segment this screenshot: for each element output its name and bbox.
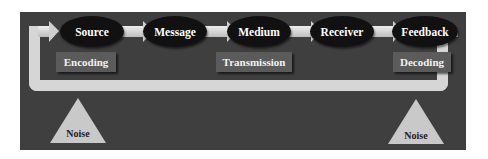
node-medium: Medium [227,16,291,47]
node-feedback: Feedback [392,16,458,47]
arrow-loop-to-source [38,26,50,37]
node-receiver: Receiver [310,16,374,47]
stage-transmission: Transmission [216,52,292,72]
arrow-message-to-medium [204,26,228,37]
stage-encoding: Encoding [56,52,116,72]
arrow-medium-to-receiver [288,26,312,37]
diagram-panel: Source Message Medium Receiver Feedback … [20,12,466,150]
stage-decoding: Decoding [393,52,451,72]
node-message: Message [143,16,207,47]
noise-label-left: Noise [50,128,106,139]
noise-label-right: Noise [388,130,444,141]
node-source: Source [60,16,124,47]
